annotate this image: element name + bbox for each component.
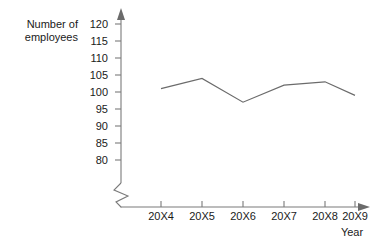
x-axis-arrow-icon	[358, 203, 370, 211]
x-tick-marks	[161, 201, 355, 207]
y-tick-marks	[115, 24, 121, 160]
x-axis-group	[121, 201, 370, 211]
data-series-line	[161, 78, 355, 102]
line-chart: Number of employees Year 120 115 110 105…	[0, 0, 377, 246]
axis-break-icon	[114, 183, 128, 207]
plot-area	[0, 0, 377, 246]
y-axis-group	[114, 8, 128, 208]
y-axis-arrow-icon	[117, 8, 125, 20]
